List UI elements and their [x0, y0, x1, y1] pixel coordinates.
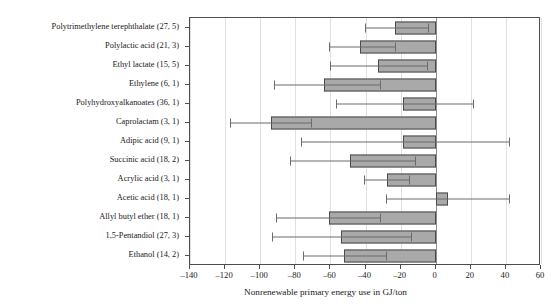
x-axis-tick-label: –120: [216, 271, 233, 280]
category-label: Allyl butyl ether (18, 1): [99, 213, 179, 221]
x-axis-tick-label: 20: [466, 271, 475, 280]
x-axis-tick-label: –100: [251, 271, 268, 280]
y-axis-tick: [185, 160, 189, 161]
category-label: Polytrimethylene terephthalate (27, 5): [52, 22, 179, 30]
error-bar: [272, 237, 411, 238]
y-axis-tick: [185, 198, 189, 199]
plot-area: [189, 17, 540, 265]
category-label: Adipic acid (9, 1): [120, 137, 179, 145]
x-axis-tick-label: –60: [323, 271, 336, 280]
x-axis-tick-label: 60: [536, 271, 545, 280]
gridline: [541, 18, 542, 264]
error-bar: [336, 103, 473, 104]
error-cap-high: [386, 252, 387, 261]
error-bar: [386, 199, 510, 200]
category-axis: Polytrimethylene terephthalate (27, 5)Po…: [0, 17, 186, 265]
category-label: Caprolactam (3, 1): [116, 118, 179, 126]
error-cap-low: [276, 214, 277, 223]
error-bar: [303, 256, 385, 257]
error-bar: [230, 122, 311, 123]
x-axis-tick: [224, 265, 225, 269]
x-axis-tick-label: –140: [180, 271, 197, 280]
y-axis-tick: [185, 122, 189, 123]
error-cap-high: [509, 195, 510, 204]
error-cap-low: [290, 157, 291, 166]
x-axis-tick-label: –40: [358, 271, 371, 280]
x-axis-tick-label: –20: [393, 271, 406, 280]
y-axis-tick: [185, 46, 189, 47]
error-cap-high: [380, 80, 381, 89]
error-cap-high: [415, 157, 416, 166]
error-cap-low: [386, 195, 387, 204]
x-axis-tick: [189, 265, 190, 269]
error-cap-high: [427, 61, 428, 70]
error-cap-high: [395, 42, 396, 51]
error-cap-low: [230, 118, 231, 127]
error-cap-low: [336, 99, 337, 108]
error-bar: [274, 84, 379, 85]
error-bar: [330, 65, 427, 66]
category-label: Polyhydroxyalkanoates (36, 1): [76, 99, 179, 107]
error-cap-low: [330, 61, 331, 70]
y-axis-tick: [185, 103, 189, 104]
error-cap-low: [301, 138, 302, 147]
error-cap-low: [303, 252, 304, 261]
x-axis-tick: [259, 265, 260, 269]
category-label: Ethylene (6, 1): [129, 80, 179, 88]
category-label: 1,5-Pentandiol (27, 3): [105, 232, 179, 240]
gridline: [260, 18, 261, 264]
error-bar: [365, 27, 428, 28]
error-cap-high: [411, 233, 412, 242]
chart-figure: Polytrimethylene terephthalate (27, 5)Po…: [0, 0, 551, 308]
x-axis-tick: [294, 265, 295, 269]
category-label: Ethanol (14, 2): [129, 251, 179, 259]
x-axis-tick-label: 0: [433, 271, 437, 280]
x-axis-tick: [365, 265, 366, 269]
error-cap-low: [364, 176, 365, 185]
x-axis-tick: [540, 265, 541, 269]
error-cap-high: [311, 118, 312, 127]
error-cap-high: [473, 99, 474, 108]
error-cap-high: [428, 23, 429, 32]
category-label: Acrylic acid (3, 1): [118, 175, 179, 183]
x-axis-tick: [505, 265, 506, 269]
y-axis-tick: [185, 217, 189, 218]
category-label: Succinic acid (18, 2): [110, 156, 179, 164]
category-label: Polylactic acid (21, 3): [105, 41, 179, 49]
gridline: [190, 18, 191, 264]
x-axis-title: Nonrenewable primary energy use in GJ/to…: [0, 287, 551, 297]
error-cap-low: [365, 23, 366, 32]
x-axis-tick: [435, 265, 436, 269]
y-axis-tick: [185, 84, 189, 85]
error-cap-low: [329, 42, 330, 51]
category-label: Acetic acid (18, 1): [117, 194, 179, 202]
error-bar: [276, 218, 380, 219]
error-bar: [364, 180, 410, 181]
y-axis-tick: [185, 236, 189, 237]
y-axis-tick: [185, 65, 189, 66]
x-axis-tick: [400, 265, 401, 269]
y-axis-tick: [185, 255, 189, 256]
x-axis-tick: [329, 265, 330, 269]
y-axis-tick: [185, 27, 189, 28]
x-axis-tick-label: –80: [288, 271, 301, 280]
x-axis-tick: [470, 265, 471, 269]
y-axis-tick: [185, 141, 189, 142]
error-cap-low: [272, 233, 273, 242]
error-bar: [301, 142, 510, 143]
gridline: [225, 18, 226, 264]
x-axis-title-text: Nonrenewable primary energy use in GJ/to…: [244, 287, 407, 297]
error-bar: [290, 161, 415, 162]
error-cap-low: [274, 80, 275, 89]
error-cap-high: [380, 214, 381, 223]
x-axis-tick-label: 40: [501, 271, 510, 280]
error-cap-high: [409, 176, 410, 185]
error-bar: [329, 46, 396, 47]
y-axis-tick: [185, 179, 189, 180]
error-cap-high: [509, 138, 510, 147]
gridline: [295, 18, 296, 264]
category-label: Ethyl lactate (15, 5): [112, 60, 179, 68]
